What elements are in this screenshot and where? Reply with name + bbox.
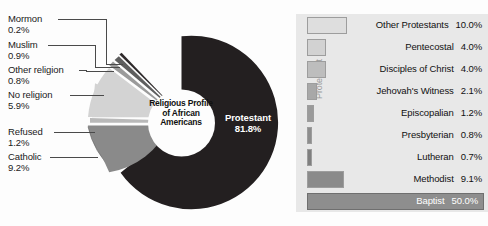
protestant-breakdown-panel: Protestant Other Protestants10.0% Pentec…: [296, 14, 488, 212]
breakdown-row[interactable]: Disciples of Christ4.0%: [296, 60, 488, 80]
breakdown-row-name: Other Protestants: [376, 19, 449, 30]
breakdown-row-name: Disciples of Christ: [380, 63, 454, 74]
callout-refused-label: Refused: [8, 127, 43, 138]
callout-refused: Refused 1.2%: [8, 127, 43, 148]
breakdown-bar: [307, 17, 347, 34]
breakdown-bar: [307, 105, 314, 122]
breakdown-row-value: 9.1%: [461, 173, 482, 184]
breakdown-row[interactable]: Pentecostal4.0%: [296, 38, 488, 58]
breakdown-row[interactable]: Jehovah's Witness2.1%: [296, 82, 488, 102]
callout-no-religion-label: No religion: [8, 90, 52, 101]
breakdown-row-name: Jehovah's Witness: [377, 85, 454, 96]
breakdown-row-name: Methodist: [413, 173, 453, 184]
callout-no-religion: No religion 5.9%: [8, 90, 52, 111]
breakdown-row[interactable]: Lutheran0.7%: [296, 148, 488, 168]
callout-catholic: Catholic 9.2%: [8, 152, 42, 173]
center-line-3: of: [162, 108, 170, 118]
leader-line-refused-h: [54, 132, 95, 133]
breakdown-row-name: Episcopalian: [401, 107, 454, 118]
breakdown-row[interactable]: Baptist50.0%: [296, 192, 488, 212]
leader-line-muslim-h2: [95, 67, 120, 68]
breakdown-row-name: Presbyterian: [402, 129, 454, 140]
leader-line-catholic-h: [50, 157, 98, 158]
breakdown-bar: [307, 61, 326, 78]
callout-muslim-value: 0.9%: [8, 51, 37, 62]
leader-line-mormon-h: [58, 19, 107, 20]
breakdown-row[interactable]: Other Protestants10.0%: [296, 16, 488, 36]
slice-label-protestant-value: 81.8%: [235, 123, 261, 134]
breakdown-row-value: 1.2%: [461, 107, 482, 118]
pie-center-title: Religious Profile of African Americans: [148, 99, 214, 128]
breakdown-row-name: Baptist: [416, 195, 444, 206]
breakdown-row[interactable]: Episcopalian1.2%: [296, 104, 488, 124]
breakdown-row-name: Pentecostal: [405, 41, 454, 52]
callout-refused-value: 1.2%: [8, 138, 43, 149]
callout-mormon: Mormon 0.2%: [8, 14, 42, 35]
breakdown-bar: [307, 39, 326, 56]
center-line-5: Americans: [160, 117, 202, 127]
breakdown-row-name: Lutheran: [417, 151, 454, 162]
callout-muslim-label: Muslim: [8, 40, 37, 51]
breakdown-row-text: Presbyterian0.8%: [402, 129, 482, 141]
breakdown-row-text: Other Protestants10.0%: [376, 19, 482, 31]
leader-line-mormon-h2: [106, 64, 123, 65]
callout-catholic-label: Catholic: [8, 152, 42, 163]
leader-line-other-religion-h2: [86, 71, 114, 72]
breakdown-row-text: Disciples of Christ4.0%: [380, 63, 482, 75]
breakdown-row-value: 10.0%: [456, 19, 482, 30]
breakdown-row-value: 50.0%: [452, 195, 478, 206]
breakdown-row-value: 4.0%: [461, 41, 482, 52]
callout-muslim: Muslim 0.9%: [8, 40, 37, 61]
slice-label-protestant-name: Protestant: [225, 112, 271, 123]
breakdown-row-text: Lutheran0.7%: [417, 151, 482, 163]
center-line-1: Religious: [149, 98, 185, 108]
center-line-4: African: [172, 108, 200, 118]
slice-label-protestant: Protestant 81.8%: [210, 112, 286, 134]
pie-chart: Religious Profile of African Americans P…: [0, 0, 300, 226]
callout-other-religion-label: Other religion: [8, 65, 64, 76]
breakdown-row-text: Episcopalian1.2%: [401, 107, 482, 119]
religious-profile-chart: Religious Profile of African Americans P…: [0, 0, 488, 226]
callout-catholic-value: 9.2%: [8, 163, 42, 174]
breakdown-bar: [307, 127, 312, 144]
breakdown-row-text: Jehovah's Witness2.1%: [377, 85, 482, 97]
breakdown-row-value: 0.7%: [461, 151, 482, 162]
callout-mormon-label: Mormon: [8, 14, 42, 25]
leader-line-muslim-h: [48, 45, 96, 46]
breakdown-row[interactable]: Methodist9.1%: [296, 170, 488, 190]
callout-other-religion: Other religion 0.8%: [8, 65, 64, 86]
breakdown-row-text: Methodist9.1%: [413, 173, 482, 185]
breakdown-row-value: 4.0%: [461, 63, 482, 74]
leader-line-muslim-v: [95, 45, 96, 68]
leader-line-no-religion-h: [70, 95, 104, 96]
breakdown-bar: [307, 149, 312, 166]
center-line-2: Profile: [188, 98, 213, 108]
callout-other-religion-value: 0.8%: [8, 76, 64, 87]
breakdown-row-value: 2.1%: [461, 85, 482, 96]
callout-mormon-value: 0.2%: [8, 25, 42, 36]
breakdown-row[interactable]: Presbyterian0.8%: [296, 126, 488, 146]
breakdown-bar: [307, 171, 344, 188]
breakdown-row-text: Baptist50.0%: [416, 195, 478, 207]
breakdown-bar: [307, 83, 317, 100]
breakdown-row-text: Pentecostal4.0%: [405, 41, 482, 53]
breakdown-row-value: 0.8%: [461, 129, 482, 140]
callout-no-religion-value: 5.9%: [8, 101, 52, 112]
leader-line-mormon-v: [106, 19, 107, 65]
